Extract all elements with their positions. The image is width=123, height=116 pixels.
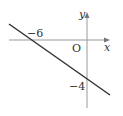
graph: −6 O x y −4 — [0, 0, 123, 116]
x-intercept-label: −6 — [27, 27, 43, 40]
y-axis-label: y — [78, 8, 86, 21]
y-intercept-label: −4 — [69, 80, 85, 93]
x-axis-label: x — [104, 41, 111, 54]
y-axis-arrow-icon — [85, 12, 90, 18]
origin-label: O — [72, 42, 81, 55]
graph-line — [9, 24, 110, 95]
